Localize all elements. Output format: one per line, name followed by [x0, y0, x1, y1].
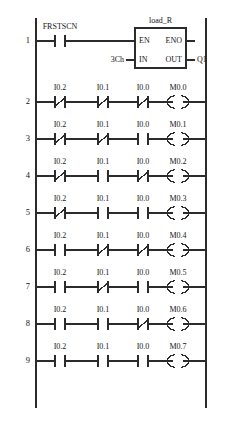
block-in-operand: 3Ch [111, 56, 124, 64]
contact-label-i0-0-r5: I0.0 [137, 195, 150, 203]
contact-label-i0-0-r7: I0.0 [137, 269, 150, 277]
coil-label-m0-1: M0.1 [169, 121, 186, 129]
contact-label-i0-2-r6: I0.2 [54, 232, 67, 240]
contact-label-i0-2-r5: I0.2 [54, 195, 67, 203]
contact-i0-0-r8[interactable] [137, 318, 150, 329]
contact-label-i0-0-r2: I0.0 [137, 84, 150, 92]
contact-label-i0-1-r2: I0.1 [97, 84, 110, 92]
rung-5 [36, 207, 206, 219]
rung-8 [36, 318, 206, 330]
contact-i0-2-r2[interactable] [54, 96, 67, 107]
contact-label-i0-0-r8: I0.0 [137, 306, 150, 314]
block-out-operand: Q1 [197, 56, 207, 64]
rung-number-8: 8 [26, 319, 30, 328]
rung-9 [36, 355, 206, 367]
contact-i0-0-r3[interactable] [138, 133, 148, 144]
contact-label-i0-1-r3: I0.1 [97, 121, 110, 129]
rung-number-7: 7 [26, 282, 30, 291]
coil-label-m0-3: M0.3 [169, 195, 186, 203]
rung-number-3: 3 [26, 134, 30, 143]
function-block-name: load_R [149, 17, 172, 25]
coil-label-m0-0: M0.0 [169, 84, 186, 92]
contact-label-i0-1-r5: I0.1 [97, 195, 110, 203]
contact-i0-0-r9[interactable] [138, 355, 148, 366]
contact-i0-1-r4[interactable] [98, 170, 108, 181]
contact-label-i0-2-r9: I0.2 [54, 343, 67, 351]
rung-6 [36, 244, 206, 256]
contact-label-i0-0-r9: I0.0 [137, 343, 150, 351]
contact-i0-0-r2[interactable] [137, 96, 150, 107]
contact-i0-1-r3[interactable] [97, 133, 110, 144]
coil-label-m0-6: M0.6 [169, 306, 186, 314]
contact-i0-1-r5[interactable] [98, 207, 108, 218]
coil-label-m0-4: M0.4 [169, 232, 186, 240]
ladder-diagram-canvas: 1FRSTSCNload_RENENOINOUT3ChQ12I0.2I0.1I0… [0, 0, 230, 422]
rung-2 [36, 96, 206, 108]
rung-number-4: 4 [26, 171, 30, 180]
block-pin-in: IN [139, 56, 147, 64]
contact-i0-2-r8[interactable] [55, 318, 65, 329]
contact-i0-1-r6[interactable] [97, 244, 110, 255]
contact-i0-2-r7[interactable] [55, 281, 65, 292]
contact-label-i0-0-r4: I0.0 [137, 158, 150, 166]
rung-number-1: 1 [26, 36, 30, 45]
rung-4 [36, 170, 206, 182]
coil-label-m0-5: M0.5 [169, 269, 186, 277]
contact-i0-1-r8[interactable] [98, 318, 108, 329]
rung-number-5: 5 [26, 208, 30, 217]
contact-label-i0-0-r3: I0.0 [137, 121, 150, 129]
rung-3 [36, 133, 206, 145]
rung-number-2: 2 [26, 97, 30, 106]
contact-label-i0-2-r3: I0.2 [54, 121, 67, 129]
block-pin-out: OUT [166, 56, 182, 64]
contact-i0-1-r7[interactable] [97, 281, 110, 292]
contact-label-i0-1-r9: I0.1 [97, 343, 110, 351]
contact-i0-0-r4[interactable] [137, 170, 150, 181]
rung-number-6: 6 [26, 245, 30, 254]
contact-label-i0-1-r8: I0.1 [97, 306, 110, 314]
contact-i0-2-r3[interactable] [54, 133, 67, 144]
contact-i0-0-r5[interactable] [138, 207, 148, 218]
contact-label-i0-1-r4: I0.1 [97, 158, 110, 166]
contact-i0-0-r6[interactable] [137, 244, 150, 255]
contact-i0-2-r9[interactable] [55, 355, 65, 366]
contact-label-i0-2-r7: I0.2 [54, 269, 67, 277]
contact-label-i0-2-r8: I0.2 [54, 306, 67, 314]
contact-i0-0-r7[interactable] [138, 281, 148, 292]
contact-i0-1-r9[interactable] [98, 355, 108, 366]
contact-i0-1-r2[interactable] [97, 96, 110, 107]
contact-label-i0-0-r6: I0.0 [137, 232, 150, 240]
block-pin-eno: ENO [166, 37, 182, 45]
block-pin-en: EN [139, 37, 150, 45]
contact-i0-2-r4[interactable] [54, 170, 67, 181]
contact-label-i0-2-r2: I0.2 [54, 84, 67, 92]
contact-i0-2-r5[interactable] [54, 207, 67, 218]
contact-label-i0-1-r7: I0.1 [97, 269, 110, 277]
coil-label-m0-2: M0.2 [169, 158, 186, 166]
rung-7 [36, 281, 206, 293]
contact-i0-2-r6[interactable] [55, 244, 65, 255]
coil-label-m0-7: M0.7 [169, 343, 186, 351]
contact-label-i0-2-r4: I0.2 [54, 158, 67, 166]
contact-frstscn-r1[interactable] [55, 35, 65, 46]
contact-label-frstscn: FRSTSCN [43, 23, 78, 31]
rung-number-9: 9 [26, 356, 30, 365]
contact-label-i0-1-r6: I0.1 [97, 232, 110, 240]
